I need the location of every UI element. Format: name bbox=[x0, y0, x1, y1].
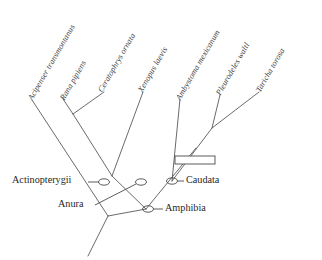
branch-anura-to-rana-cerato bbox=[73, 114, 112, 176]
branch-amphibia-to-anura bbox=[112, 176, 146, 209]
clade-label-caudata: Caudata bbox=[186, 174, 219, 185]
branch-ceratophrys bbox=[73, 92, 104, 114]
clade-label-amphibia: Amphibia bbox=[165, 202, 206, 213]
leader-anura bbox=[95, 184, 136, 205]
node-marker-actinopterygii bbox=[99, 179, 110, 185]
character-state-box bbox=[175, 156, 215, 164]
branch-root-to-amphibia bbox=[108, 209, 146, 216]
phylogenetic-tree-figure: Acipenser transmontanus Rana pipiens Cer… bbox=[0, 0, 322, 260]
tree-graphic bbox=[0, 0, 322, 260]
node-marker-anura bbox=[136, 179, 147, 185]
branch-root-stem bbox=[88, 216, 108, 256]
clade-label-anura: Anura bbox=[58, 198, 83, 209]
clade-label-actinopterygii: Actinopterygii bbox=[12, 174, 71, 185]
branch-xenopus bbox=[112, 92, 143, 176]
